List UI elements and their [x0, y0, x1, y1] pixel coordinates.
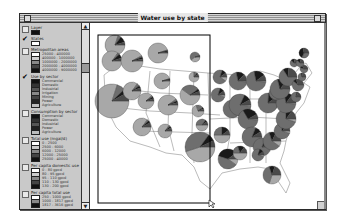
pie-chart-nv[interactable] — [123, 82, 141, 100]
pie-chart-mi[interactable] — [246, 71, 266, 91]
legend-swatch — [31, 30, 40, 35]
pie-slice — [196, 125, 208, 131]
scroll-up-arrow-icon[interactable]: ▲ — [82, 23, 89, 30]
pie-chart-mt[interactable] — [148, 43, 168, 63]
legend-class-row: 1817 - 3616 gpcd — [31, 203, 81, 207]
map-window: Water use by state Layer✔StatesMetropoli… — [19, 13, 326, 210]
legend-class-label: 4000000 - 9000000 — [42, 68, 77, 72]
pie-chart-me[interactable] — [299, 48, 309, 58]
legend-class-row: 25000 - 40000 — [31, 157, 81, 161]
layer-visibility-checkbox[interactable] — [22, 26, 29, 33]
layer-visibility-checkbox[interactable] — [22, 164, 29, 171]
cursor-icon — [209, 200, 215, 208]
legend-swatch — [31, 157, 40, 162]
legend-class-label: 130 - 200 gpcd — [42, 184, 69, 188]
legend-swatch — [31, 203, 40, 208]
legend-panel: Layer✔StatesMetropolitan areas25000 - 40… — [20, 23, 81, 209]
pie-slice — [214, 135, 230, 143]
legend-class-row: Agriculture — [31, 130, 81, 134]
title-bar[interactable]: Water use by state — [20, 14, 325, 23]
pie-chart-az[interactable] — [133, 118, 151, 136]
legend-swatch — [31, 130, 40, 135]
pie-chart-ct[interactable] — [298, 73, 306, 81]
pie-chart-nh[interactable] — [296, 59, 304, 67]
pie-chart-or[interactable] — [102, 51, 122, 71]
legend-layer: ✔Use by sectorCommercialDomesticIndustri… — [20, 74, 81, 107]
legend-class-label: Agriculture — [42, 130, 61, 134]
pie-chart-ok[interactable] — [196, 119, 208, 131]
legend-layer: Consumption by sectorCommercialDomesticI… — [20, 109, 81, 134]
zoom-box-button[interactable] — [314, 15, 321, 22]
pie-slice — [288, 68, 297, 77]
legend-layer: ✔States — [20, 36, 81, 45]
pie-chart-ut[interactable] — [138, 93, 154, 109]
legend-class-row — [31, 41, 81, 45]
pie-chart-wy[interactable] — [154, 73, 170, 89]
layer-visibility-checkbox[interactable] — [22, 110, 29, 117]
map-canvas[interactable] — [90, 23, 325, 209]
legend-layer: Layer — [20, 25, 81, 34]
scroll-down-arrow-icon[interactable]: ▼ — [82, 202, 89, 209]
pie-chart-al[interactable] — [252, 149, 264, 161]
legend-class-row — [31, 30, 81, 34]
legend-class-label: 25000 - 40000 — [42, 157, 68, 161]
pie-chart-nd[interactable] — [190, 52, 200, 62]
layer-visibility-checkbox[interactable] — [22, 137, 29, 144]
legend-class-row: 130 - 200 gpcd — [31, 184, 81, 188]
pie-chart-co[interactable] — [158, 95, 178, 115]
legend-layer: Per capita total use250 - 1000 gpcd1000 … — [20, 190, 81, 207]
pie-chart-fl[interactable] — [263, 166, 281, 184]
layer-visibility-checkbox-checked[interactable]: ✔ — [22, 75, 27, 80]
pie-chart-sd[interactable] — [189, 72, 199, 82]
pie-chart-mn[interactable] — [213, 70, 227, 84]
legend-layer: Per capita domestic use0 - 80 gpcd80 - 9… — [20, 163, 81, 188]
legend-swatch — [31, 184, 40, 189]
window-title: Water use by state — [137, 13, 207, 22]
legend-layer: Total use (mgal/d)0 - 25002500 - 6000600… — [20, 136, 81, 161]
pie-chart-layer — [95, 35, 309, 184]
close-box-button[interactable] — [24, 15, 31, 22]
layer-visibility-checkbox[interactable] — [22, 191, 29, 198]
legend-class-label: 1817 - 3616 gpcd — [42, 203, 73, 207]
pie-slice — [303, 48, 309, 53]
us-map — [90, 23, 325, 209]
layer-visibility-checkbox-checked[interactable]: ✔ — [22, 37, 27, 42]
legend-swatch — [31, 41, 40, 46]
legend-class-row: Agriculture — [31, 103, 81, 107]
pie-slice — [214, 127, 222, 135]
legend-scrollbar[interactable]: ▲ ▼ — [81, 23, 90, 209]
legend-class-label: Agriculture — [42, 103, 61, 107]
pie-chart-md[interactable] — [291, 92, 301, 102]
legend-swatch — [31, 68, 40, 73]
legend-class-row: 4000000 - 9000000 — [31, 68, 81, 72]
pie-chart-id[interactable] — [121, 50, 143, 72]
legend-layer: Metropolitan areas25000 - 400000400000 -… — [20, 47, 81, 72]
pie-slice — [302, 73, 306, 77]
pie-slice — [300, 59, 304, 63]
pie-chart-ar[interactable] — [214, 127, 230, 143]
pie-chart-wi[interactable] — [229, 72, 247, 90]
pie-chart-ms[interactable] — [233, 146, 247, 160]
window-right-edge — [324, 23, 326, 209]
pie-chart-ia[interactable] — [211, 88, 225, 102]
pie-chart-ne[interactable] — [180, 85, 200, 105]
pie-chart-in[interactable] — [238, 109, 258, 129]
scroll-thumb[interactable] — [82, 63, 89, 73]
pie-chart-nm[interactable] — [158, 124, 172, 138]
pie-chart-ks[interactable] — [192, 105, 204, 117]
layer-visibility-checkbox[interactable] — [22, 48, 29, 55]
legend-swatch — [31, 103, 40, 108]
